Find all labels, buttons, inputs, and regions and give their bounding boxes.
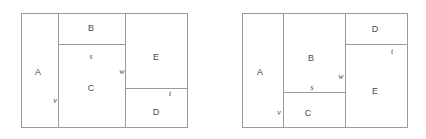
right-diagram-vertical-divider-1 (283, 13, 284, 128)
right-diagram-label-e: E (372, 87, 378, 96)
right-diagram-horizontal-divider-2 (345, 44, 408, 45)
right-diagram-edge-label-w: w (338, 73, 343, 81)
right-diagram-region-c (283, 92, 345, 128)
right-diagram-edge-label-t: t (391, 48, 393, 56)
right-diagram-region-b (283, 13, 345, 92)
right-diagram-label-b: B (308, 54, 314, 63)
right-diagram-label-d: D (372, 25, 379, 34)
right-diagram-edge-label-s: s (310, 84, 313, 92)
diagram-canvas: ABCDEsvwtABCDEsvwt (0, 0, 426, 139)
right-diagram-label-a: A (257, 68, 263, 77)
right-diagram-edge-label-v: v (277, 109, 281, 117)
right-diagram-vertical-divider-2 (345, 13, 346, 128)
right-diagram-horizontal-divider-1 (283, 92, 345, 93)
right-diagram-label-c: C (305, 109, 312, 118)
right-diagram: ABCDEsvwt (0, 0, 426, 139)
